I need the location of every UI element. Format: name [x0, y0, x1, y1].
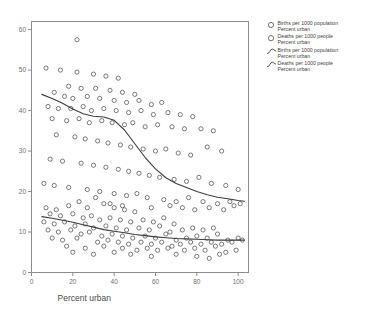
data-point — [236, 187, 240, 191]
data-point — [209, 181, 213, 185]
data-point — [106, 141, 110, 145]
data-point — [149, 242, 153, 246]
data-point — [211, 129, 215, 133]
data-point — [137, 171, 141, 175]
data-point — [116, 240, 120, 244]
data-point — [56, 106, 60, 110]
data-point — [189, 153, 193, 157]
data-point — [98, 189, 102, 193]
data-point — [112, 250, 116, 254]
y-tick-label: 0 — [22, 269, 26, 276]
data-point — [58, 68, 62, 72]
data-point — [155, 248, 159, 252]
data-point — [143, 125, 147, 129]
data-point — [108, 88, 112, 92]
data-point — [89, 214, 93, 218]
data-point — [116, 167, 120, 171]
data-point — [205, 145, 209, 149]
data-point — [178, 113, 182, 117]
data-point — [118, 218, 122, 222]
data-point — [91, 252, 95, 256]
x-axis-title: Percent urban — [58, 293, 112, 303]
data-point — [189, 240, 193, 244]
scatter-chart: 0102030405060020406080100 Percent urban … — [0, 0, 375, 318]
data-point — [110, 232, 114, 236]
data-point — [112, 191, 116, 195]
data-point — [168, 204, 172, 208]
data-point — [162, 216, 166, 220]
data-point — [160, 100, 164, 104]
data-point — [172, 222, 176, 226]
data-point — [201, 228, 205, 232]
data-point — [135, 248, 139, 252]
data-point — [75, 38, 79, 42]
data-point — [56, 230, 60, 234]
data-point — [215, 202, 219, 206]
data-point — [133, 210, 137, 214]
data-point — [85, 94, 89, 98]
data-point — [184, 236, 188, 240]
y-tick-label: 30 — [19, 147, 27, 154]
data-point — [153, 149, 157, 153]
data-point — [207, 206, 211, 210]
data-point — [81, 104, 85, 108]
data-point — [112, 98, 116, 102]
data-point — [149, 102, 153, 106]
data-point — [168, 230, 172, 234]
data-point — [195, 254, 199, 258]
data-point — [91, 72, 95, 76]
data-point — [75, 70, 79, 74]
data-point — [122, 208, 126, 212]
legend-marker-curve-icon — [268, 62, 276, 67]
data-point — [71, 212, 75, 216]
data-point — [60, 159, 64, 163]
data-point — [98, 96, 102, 100]
data-point — [236, 236, 240, 240]
data-point — [186, 196, 190, 200]
data-point — [100, 234, 104, 238]
data-point — [73, 224, 77, 228]
data-point — [220, 242, 224, 246]
data-point — [127, 110, 131, 114]
data-point — [162, 198, 166, 202]
data-point — [124, 228, 128, 232]
data-point — [89, 108, 93, 112]
axis-tick-labels: 0102030405060020406080100 — [19, 26, 244, 285]
data-point — [149, 254, 153, 258]
data-point — [85, 187, 89, 191]
data-point — [224, 250, 228, 254]
data-point — [112, 206, 116, 210]
data-point — [79, 161, 83, 165]
data-point — [141, 218, 145, 222]
data-point — [199, 127, 203, 131]
data-point — [52, 183, 56, 187]
data-point — [102, 244, 106, 248]
data-point — [232, 204, 236, 208]
data-point — [69, 228, 73, 232]
data-point — [129, 220, 133, 224]
data-point — [238, 202, 242, 206]
data-point — [164, 232, 168, 236]
data-point — [191, 226, 195, 230]
data-point — [180, 228, 184, 232]
data-point — [215, 232, 219, 236]
data-point — [114, 226, 118, 230]
data-point — [67, 84, 71, 88]
y-tick-label: 50 — [19, 66, 27, 73]
data-point — [207, 256, 211, 260]
legend-label-secondary: Percent urban — [278, 39, 311, 45]
data-point — [174, 200, 178, 204]
data-point — [158, 175, 162, 179]
data-point — [155, 123, 159, 127]
x-axis-label: Percent urban — [58, 293, 112, 303]
data-point — [166, 246, 170, 250]
data-point — [182, 127, 186, 131]
data-point — [147, 228, 151, 232]
legend-marker-curve-icon — [268, 49, 276, 54]
data-point — [139, 240, 143, 244]
data-point — [133, 92, 137, 96]
data-point — [191, 115, 195, 119]
data-point — [54, 208, 58, 212]
data-point — [160, 240, 164, 244]
data-point — [58, 214, 62, 218]
